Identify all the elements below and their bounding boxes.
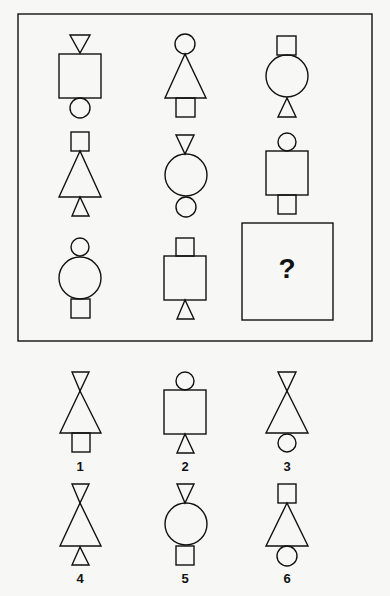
matrix-cell-1-3 <box>266 36 308 117</box>
triangle-down-icon <box>177 484 194 503</box>
square-icon <box>266 151 308 195</box>
triangle-up-icon <box>266 391 308 433</box>
triangle-down-icon <box>70 35 90 53</box>
triangle-down-icon <box>278 372 296 391</box>
option-2-figure[interactable] <box>164 372 206 453</box>
option-3-figure[interactable] <box>266 372 308 452</box>
option-4-label[interactable]: 4 <box>70 572 90 586</box>
matrix-cell-2-1 <box>59 132 101 216</box>
triangle-up-icon <box>60 503 101 546</box>
circle-icon <box>278 434 296 452</box>
puzzle-stage: ? 1 2 3 4 5 6 <box>0 0 390 596</box>
matrix-frame <box>18 14 372 341</box>
triangle-up-icon <box>177 300 194 319</box>
circle-icon <box>277 546 297 566</box>
square-icon <box>278 195 296 214</box>
triangle-up-icon <box>59 151 101 197</box>
option-2-label[interactable]: 2 <box>175 460 195 474</box>
triangle-up-icon <box>72 547 89 565</box>
square-icon <box>278 484 296 503</box>
square-icon <box>72 433 90 452</box>
square-icon <box>176 98 195 117</box>
square-icon <box>59 54 101 98</box>
circle-icon <box>165 154 207 196</box>
matrix-cell-2-2 <box>165 135 207 217</box>
square-icon <box>164 256 206 300</box>
triangle-down-icon <box>72 484 89 503</box>
matrix-cell-1-1 <box>59 35 101 118</box>
circle-icon <box>176 197 196 217</box>
option-6-label[interactable]: 6 <box>277 572 297 586</box>
option-3-label[interactable]: 3 <box>277 460 297 474</box>
triangle-up-icon <box>266 503 308 546</box>
square-icon <box>176 546 194 565</box>
matrix-cell-3-2 <box>164 238 206 319</box>
puzzle-drawing <box>0 0 390 596</box>
triangle-down-icon <box>176 135 194 154</box>
triangle-down-icon <box>72 372 89 391</box>
option-5-figure[interactable] <box>165 484 207 565</box>
option-4-figure[interactable] <box>60 484 101 565</box>
square-icon <box>176 238 194 256</box>
circle-icon <box>70 98 90 118</box>
question-mark: ? <box>267 254 307 284</box>
circle-icon <box>59 257 101 299</box>
circle-icon <box>266 55 308 97</box>
triangle-up-icon <box>177 434 194 453</box>
square-icon <box>71 299 90 318</box>
triangle-up-icon <box>165 54 206 98</box>
circle-icon <box>176 372 194 390</box>
option-1-figure[interactable] <box>60 372 101 452</box>
option-6-figure[interactable] <box>266 484 308 566</box>
circle-icon <box>165 503 207 545</box>
circle-icon <box>175 34 195 54</box>
square-icon <box>71 132 89 151</box>
option-5-label[interactable]: 5 <box>175 572 195 586</box>
circle-icon <box>278 133 296 151</box>
option-1-label[interactable]: 1 <box>70 460 90 474</box>
matrix-cell-2-3 <box>266 133 308 214</box>
triangle-up-icon <box>60 391 101 433</box>
matrix-cell-1-2 <box>165 34 206 117</box>
triangle-up-icon <box>278 98 296 117</box>
triangle-up-icon <box>72 197 89 216</box>
square-icon <box>277 36 296 55</box>
matrix-cell-3-1 <box>59 238 101 318</box>
circle-icon <box>71 238 89 256</box>
square-icon <box>164 390 206 434</box>
